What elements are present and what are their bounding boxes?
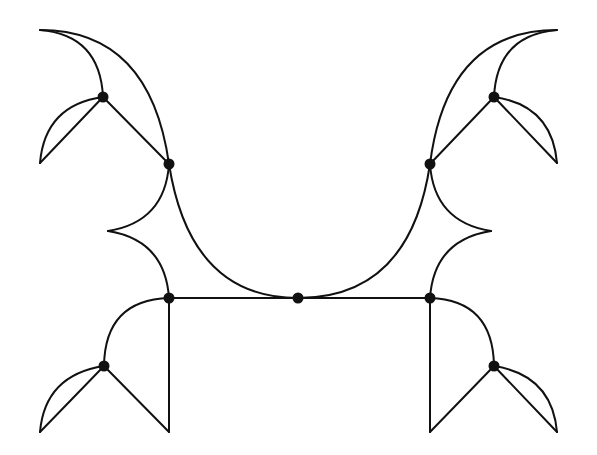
- vertices-group: [98, 92, 500, 372]
- vertex-a-right: [489, 92, 500, 103]
- vertex-c-left: [164, 293, 175, 304]
- right-cusp-upper-edge: [430, 164, 491, 231]
- top-left-spoke-edge: [103, 97, 169, 164]
- top-right-spoke-edge: [430, 97, 494, 164]
- vertex-e-left: [99, 361, 110, 372]
- bottom-right-spoke-left-edge: [430, 366, 494, 432]
- vertex-b-right: [425, 159, 436, 170]
- vertex-e-right: [489, 361, 500, 372]
- bottom-right-quarter-arc-edge: [430, 298, 494, 366]
- edges-group: [40, 30, 557, 432]
- central-u-arc-edge: [169, 164, 430, 298]
- graph-diagram: [0, 0, 597, 455]
- bottom-left-quarter-arc-edge: [104, 298, 169, 366]
- vertex-b-left: [164, 159, 175, 170]
- vertex-a-left: [98, 92, 109, 103]
- right-cusp-lower-edge: [430, 231, 491, 298]
- bottom-left-spoke-right-edge: [104, 366, 169, 432]
- vertex-d-center: [293, 293, 304, 304]
- vertex-c-right: [425, 293, 436, 304]
- left-cusp-upper-edge: [108, 164, 169, 231]
- left-cusp-lower-edge: [108, 231, 169, 298]
